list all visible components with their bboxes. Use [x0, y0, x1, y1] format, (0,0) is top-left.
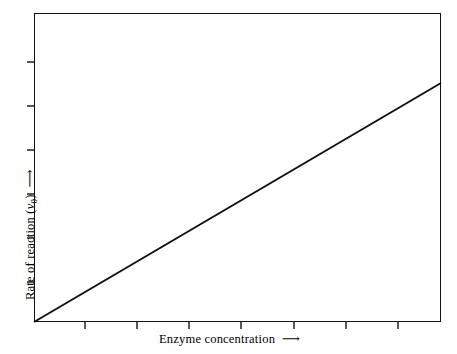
x-axis-title: Enzyme concentration⟶	[0, 331, 457, 347]
x-axis-title-text: Enzyme concentration	[159, 332, 275, 346]
plot-frame	[34, 13, 441, 322]
y-axis-title-symbol: v	[23, 204, 37, 210]
y-axis-title-subscript: 0	[29, 199, 39, 204]
y-axis-arrow-icon: ⟶	[22, 172, 38, 188]
x-axis-arrow-icon: ⟶	[282, 331, 298, 347]
y-axis-title-prefix: Rate of reaction (	[23, 209, 37, 300]
y-axis-title-suffix: )	[23, 194, 37, 198]
enzyme-concentration-chart: Rate of reaction (v0)⟶ Enzyme concentrat…	[0, 0, 457, 354]
x-axis-ticks	[85, 322, 398, 329]
y-axis-title: Rate of reaction (v0)⟶	[22, 0, 46, 300]
